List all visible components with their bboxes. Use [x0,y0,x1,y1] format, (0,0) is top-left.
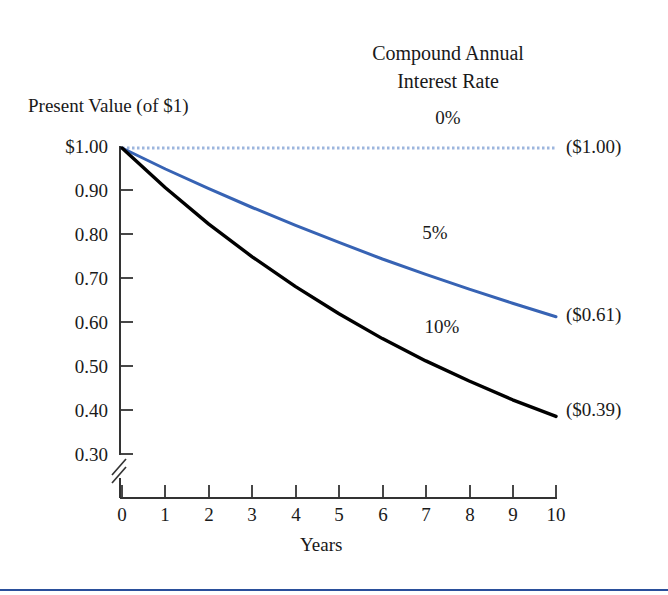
x-tick-label: 5 [322,504,356,526]
x-tick-marks [122,485,556,498]
y-tick-label: 0.90 [24,180,108,202]
x-tick-label: 3 [235,504,269,526]
y-tick-label: 0.50 [24,356,108,378]
series-line-5-percent [122,148,556,317]
x-tick-label: 2 [192,504,226,526]
y-tick-label: 0.40 [24,400,108,422]
legend-title-line-1: Compound Annual [318,42,578,65]
series-annotation-0-percent: 0% [418,107,478,129]
series-annotation-10-percent: 10% [412,316,472,338]
y-tick-label: 0.80 [24,224,108,246]
y-tick-marks [120,190,133,454]
x-tick-label: 4 [279,504,313,526]
y-axis-title: Present Value (of $1) [28,95,189,117]
x-tick-label: 8 [453,504,487,526]
x-tick-label: 1 [148,504,182,526]
series-annotation-5-percent: 5% [405,222,465,244]
end-label-10-percent: ($0.39) [566,399,621,421]
x-axis-title: Years [300,534,342,556]
x-tick-label: 6 [366,504,400,526]
series-line-10-percent [122,148,556,416]
present-value-chart-figure: Compound Annual Interest Rate Present Va… [0,0,668,595]
x-tick-label: 10 [539,504,573,526]
y-tick-label: 0.60 [24,312,108,334]
y-tick-label: $1.00 [24,136,108,158]
end-label-5-percent: ($0.61) [566,304,621,326]
y-tick-label: 0.30 [24,444,108,466]
x-tick-label: 9 [496,504,530,526]
bottom-rule-divider [0,589,668,591]
end-label-0-percent: ($1.00) [566,136,621,158]
x-tick-label: 7 [409,504,443,526]
legend-title-line-2: Interest Rate [318,70,578,93]
x-tick-label: 0 [105,504,139,526]
y-tick-label: 0.70 [24,268,108,290]
